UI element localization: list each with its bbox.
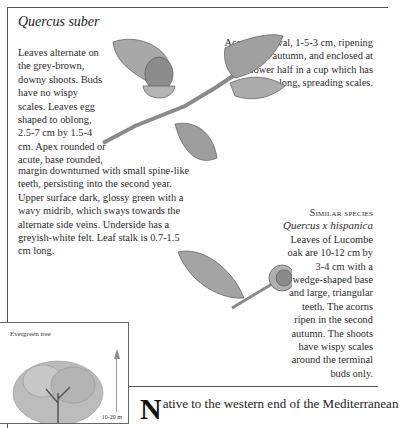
species-title: Quercus suber <box>18 14 100 30</box>
similar-species-illustration <box>172 228 292 328</box>
tree-height-label: 10-20 m <box>102 414 122 420</box>
tree-size-box: Evergreen tree 10-20 m <box>0 322 129 424</box>
tree-type-label: Evergreen tree <box>10 330 51 338</box>
oak-branch-illustration <box>95 28 285 173</box>
similar-species-heading: Similar species <box>163 206 373 219</box>
intro-paragraph: N ative to the western end of the Medite… <box>140 396 400 422</box>
dropcap: N <box>140 396 162 422</box>
height-arrow-icon <box>114 349 120 359</box>
tree-illustration <box>8 353 108 423</box>
section-divider <box>128 386 378 387</box>
intro-text: ative to the western end of the Mediterr… <box>163 396 399 411</box>
height-arrow-line <box>116 357 117 412</box>
